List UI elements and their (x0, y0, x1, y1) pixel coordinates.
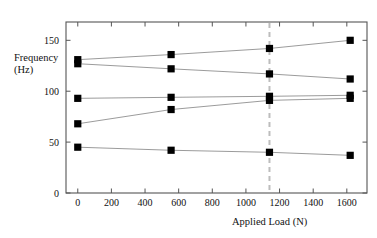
data-point-marker (266, 45, 273, 52)
data-point-marker (167, 94, 174, 101)
y-tick-label: 150 (44, 35, 59, 46)
data-point-marker (167, 106, 174, 113)
y-axis-label-line1: Frequency (14, 52, 58, 64)
data-point-marker (347, 152, 354, 159)
y-tick-label: 100 (44, 86, 59, 97)
series-line (78, 64, 350, 79)
x-tick-label: 1000 (236, 197, 256, 208)
series-line (78, 147, 350, 155)
x-tick-label: 200 (104, 197, 119, 208)
x-tick-label: 800 (205, 197, 220, 208)
series-lines (78, 40, 350, 155)
data-point-marker (74, 120, 81, 127)
y-tick-label: 0 (54, 188, 59, 199)
x-tick-label: 400 (138, 197, 153, 208)
x-axis-tick-labels: 02004006008001000120014001600 (75, 197, 357, 208)
data-point-marker (347, 95, 354, 102)
y-axis-label-line2: (Hz) (14, 64, 58, 76)
series-line (78, 95, 350, 98)
frequency-vs-load-plot: 02004006008001000120014001600 050100150 (0, 0, 377, 238)
y-axis-label: Frequency (Hz) (14, 52, 58, 76)
series-line (78, 98, 350, 123)
series-line (78, 40, 350, 59)
data-point-marker (167, 147, 174, 154)
y-tick-label: 50 (49, 137, 59, 148)
plot-frame (66, 22, 367, 193)
x-tick-label: 600 (171, 197, 186, 208)
data-point-marker (266, 149, 273, 156)
data-point-marker (74, 60, 81, 67)
x-axis-label: Applied Load (N) (232, 216, 307, 228)
data-point-marker (347, 37, 354, 44)
x-tick-label: 0 (75, 197, 80, 208)
data-point-marker (167, 65, 174, 72)
y-axis-ticks (66, 40, 367, 193)
x-tick-label: 1600 (337, 197, 357, 208)
x-tick-label: 1200 (270, 197, 290, 208)
x-axis-ticks (78, 22, 347, 193)
chart-figure: 02004006008001000120014001600 050100150 … (0, 0, 377, 238)
data-point-marker (74, 144, 81, 151)
data-point-marker (266, 97, 273, 104)
x-tick-label: 1400 (303, 197, 323, 208)
data-point-marker (74, 95, 81, 102)
data-point-marker (347, 75, 354, 82)
data-point-marker (167, 51, 174, 58)
data-point-marker (266, 70, 273, 77)
